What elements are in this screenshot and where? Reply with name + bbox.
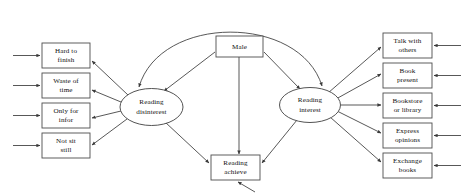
edge-interest-to-book-present <box>336 74 381 99</box>
node-label-line1: Reading <box>223 159 248 167</box>
node-hard-to-finish[interactable]: Hard to finish <box>42 43 90 68</box>
node-bookstore-or-library[interactable]: Bookstore or library <box>383 93 432 118</box>
node-label-line1: Bookstore <box>392 97 422 105</box>
node-exchange-books[interactable]: Exchange books <box>383 153 432 178</box>
edge-disinterest-to-only-for-infor <box>92 111 121 118</box>
edge-disinterest-to-not-sit-still <box>92 119 127 145</box>
node-label-line2: time <box>59 86 72 94</box>
edge-disinterest-to-reading-achieve <box>165 122 209 163</box>
node-label-line1: Book <box>400 67 416 75</box>
node-label-line1: Not sit <box>56 137 76 145</box>
node-label-line2: present <box>397 76 418 84</box>
node-label-line2: interest <box>299 106 321 114</box>
node-label-line1: Talk with <box>394 37 422 45</box>
node-label-line2: others <box>399 46 417 54</box>
node-book-present[interactable]: Book present <box>383 63 432 88</box>
node-talk-with-others[interactable]: Talk with others <box>383 33 432 58</box>
edge-disinterest-to-hard-to-finish <box>92 61 128 95</box>
node-label-line1: Only for <box>53 107 79 115</box>
node-reading-disinterest[interactable]: Reading disinterest <box>120 89 183 126</box>
node-only-for-infor[interactable]: Only for infor <box>42 103 90 128</box>
node-label-line2: infor <box>59 116 74 124</box>
node-not-sit-still[interactable]: Not sit still <box>42 133 90 158</box>
node-label-line2: or library <box>394 106 422 114</box>
edge-male-to-disinterest <box>164 52 215 91</box>
node-label-line2: still <box>60 146 71 154</box>
node-label-line2: finish <box>58 56 75 64</box>
node-reading-interest[interactable]: Reading interest <box>280 88 341 123</box>
edge-interest-to-reading-achieve <box>262 120 297 163</box>
node-label-line2: books <box>399 166 417 174</box>
path-diagram-canvas: Hard to finish Waste of time Only for in… <box>0 0 466 195</box>
node-reading-achieve[interactable]: Reading achieve <box>211 155 260 180</box>
node-male[interactable]: Male <box>216 36 263 57</box>
node-label-line2: disinterest <box>136 108 166 116</box>
error-term-reading-achieve <box>238 182 255 192</box>
edge-male-to-interest <box>264 52 300 89</box>
node-label-male: Male <box>232 43 247 51</box>
diagram-svg: Hard to finish Waste of time Only for in… <box>0 0 466 195</box>
node-label-line1: Hard to <box>55 47 78 55</box>
node-label-line1: Express <box>396 127 419 135</box>
node-label-line1: Reading <box>139 98 164 106</box>
node-label-line1: Reading <box>298 96 323 104</box>
edge-interest-to-talk-with-others <box>328 47 381 93</box>
edge-interest-to-exchange-books <box>330 117 381 162</box>
node-express-opinions[interactable]: Express opinions <box>383 123 432 148</box>
edge-interest-to-express-opinions <box>337 111 381 133</box>
node-label-line2: achieve <box>224 168 246 176</box>
node-waste-of-time[interactable]: Waste of time <box>42 73 90 98</box>
node-label-line1: Exchange <box>393 157 422 165</box>
edge-disinterest-to-waste-of-time <box>92 90 121 102</box>
node-label-line1: Waste of <box>53 77 79 85</box>
node-label-line2: opinions <box>395 136 420 144</box>
